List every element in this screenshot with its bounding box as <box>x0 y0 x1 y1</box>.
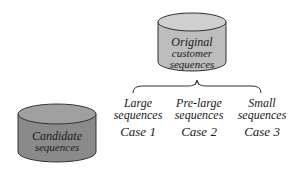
branch-label: sequences <box>171 109 227 121</box>
branch-large: Large sequences <box>110 97 166 121</box>
branch-small: Small sequences <box>234 97 290 121</box>
branch-label: sequences <box>110 109 166 121</box>
brace-connector <box>133 80 261 93</box>
label-line: sequences <box>18 142 96 153</box>
branch-label: sequences <box>234 109 290 121</box>
case-3-label: Case 3 <box>234 124 290 140</box>
original-db-label: Original customer sequences <box>158 36 226 70</box>
case-2-label: Case 2 <box>171 124 227 140</box>
label-line: sequences <box>158 59 226 70</box>
case-1-label: Case 1 <box>110 124 166 140</box>
branch-pre-large: Pre-large sequences <box>171 97 227 121</box>
candidate-db-label: Candidate sequences <box>18 130 96 153</box>
